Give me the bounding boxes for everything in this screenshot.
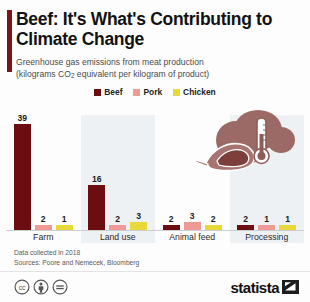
creative-commons-icon[interactable]: cc — [14, 279, 30, 295]
bar-value-label: 2 — [211, 215, 216, 224]
bar-land-use-beef[interactable]: 16 — [88, 115, 105, 230]
legend-item-chicken[interactable]: Chicken — [173, 87, 216, 97]
bar-group-bars: 232 — [155, 115, 230, 230]
subtitle-line-2-prefix: (kilograms CO — [16, 69, 71, 79]
header: Beef: It's What's Contributing to Climat… — [0, 0, 310, 80]
bar-animal-feed-pork[interactable]: 3 — [184, 115, 201, 230]
bar-value-label: 2 — [41, 215, 46, 224]
cc-nd-noderivatives-icon[interactable] — [52, 279, 68, 295]
bar-group-bars: 3921 — [6, 114, 81, 230]
bar-land-use-pork[interactable]: 2 — [109, 115, 126, 230]
legend-swatch-beef — [94, 89, 101, 96]
bar-value-label: 39 — [17, 114, 27, 123]
bar-processing-beef[interactable]: 2 — [237, 115, 254, 230]
bar-group-animal-feed: 232Animal feed — [155, 115, 230, 243]
bar-rect — [14, 124, 31, 230]
bar-value-label: 1 — [62, 215, 67, 224]
bar-value-label: 2 — [243, 215, 248, 224]
bar-farm-chicken[interactable]: 1 — [56, 114, 73, 230]
bar-processing-pork[interactable]: 1 — [258, 115, 275, 230]
bar-land-use-chicken[interactable]: 3 — [130, 115, 147, 230]
title-accent-bar — [7, 10, 12, 72]
subtitle-line-2-suffix: equivalent per kilogram of product) — [74, 69, 209, 79]
bar-group-land-use: 1623Land use — [81, 115, 156, 243]
bar-rect — [130, 222, 147, 230]
source-notes: Data collected in 2018 Sources: Poore an… — [0, 243, 310, 268]
bar-value-label: 2 — [169, 215, 174, 224]
svg-text:cc: cc — [19, 284, 26, 291]
statista-logo[interactable]: statista — [230, 279, 299, 296]
legend-label-pork: Pork — [143, 87, 162, 97]
legend-swatch-chicken — [173, 89, 180, 96]
statista-infographic: Beef: It's What's Contributing to Climat… — [0, 0, 310, 302]
x-axis-label-farm: Farm — [6, 230, 81, 243]
bar-group-bars: 1623 — [81, 115, 156, 230]
bar-rect — [184, 222, 201, 230]
bar-value-label: 2 — [115, 215, 120, 224]
bar-value-label: 3 — [190, 212, 195, 221]
cc-by-attribution-icon[interactable] — [33, 279, 49, 295]
bar-value-label: 16 — [92, 175, 102, 184]
chart-legend: BeefPorkChicken — [0, 87, 310, 100]
bar-animal-feed-beef[interactable]: 2 — [163, 115, 180, 230]
legend-label-chicken: Chicken — [183, 87, 216, 97]
x-axis-label-animal-feed: Animal feed — [155, 230, 230, 243]
bar-group-farm: 3921Farm — [6, 115, 81, 243]
legend-item-beef[interactable]: Beef — [94, 87, 122, 97]
bar-processing-chicken[interactable]: 1 — [279, 115, 296, 230]
x-axis-label-land-use: Land use — [81, 230, 156, 243]
creative-commons-license-badges[interactable]: cc — [14, 279, 68, 295]
bar-value-label: 1 — [264, 215, 269, 224]
legend-label-beef: Beef — [104, 87, 122, 97]
bar-group-processing: 211Processing — [230, 115, 305, 243]
data-collected-note: Data collected in 2018 — [14, 248, 310, 258]
sources-note: Sources: Poore and Nemecek, Bloomberg — [14, 258, 310, 268]
bar-chart: 3921Farm1623Land use232Animal feed211Pro… — [0, 102, 310, 243]
subtitle-line-1: Greenhouse gas emissions from meat produ… — [16, 57, 204, 67]
bar-group-bars: 211 — [230, 115, 305, 230]
bar-value-label: 3 — [136, 212, 141, 221]
footer-bar: cc statista — [0, 271, 310, 302]
x-axis-label-processing: Processing — [230, 230, 305, 243]
bar-animal-feed-chicken[interactable]: 2 — [205, 115, 222, 230]
bar-rect — [88, 185, 105, 230]
statista-logo-mark — [282, 280, 299, 294]
statista-wordmark: statista — [230, 279, 279, 296]
bar-farm-pork[interactable]: 2 — [35, 114, 52, 230]
legend-item-pork[interactable]: Pork — [133, 87, 162, 97]
legend-swatch-pork — [133, 89, 140, 96]
subtitle: Greenhouse gas emissions from meat produ… — [16, 56, 300, 80]
bar-farm-beef[interactable]: 39 — [14, 114, 31, 230]
bar-value-label: 1 — [285, 215, 290, 224]
page-title: Beef: It's What's Contributing to Climat… — [16, 9, 300, 50]
